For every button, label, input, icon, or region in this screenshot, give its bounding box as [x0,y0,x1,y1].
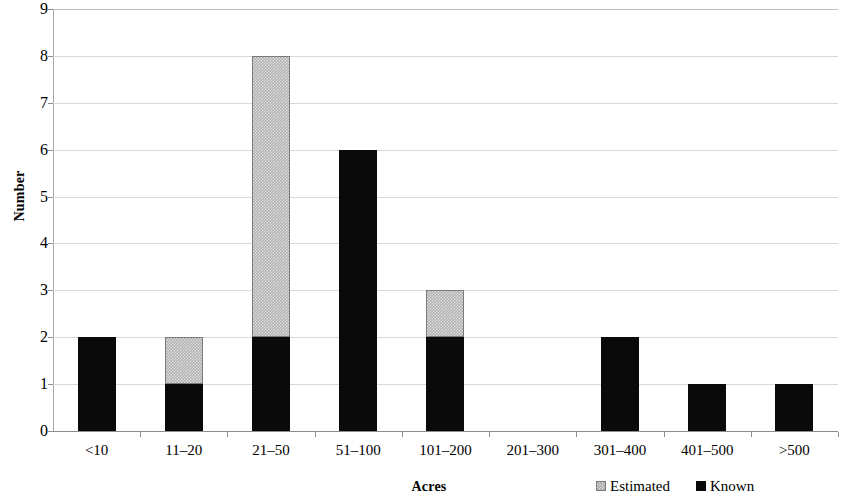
x-axis-tick-label: 301–400 [576,440,663,460]
legend-label-known: Known [710,478,754,494]
y-axis-tick-label: 3 [2,282,48,298]
y-axis-tick-label: 8 [2,48,48,64]
bar-slot [576,9,663,431]
legend-swatch-estimated-icon [596,481,606,491]
bar-segment-estimated[interactable] [426,290,464,337]
y-axis-tick-labels: 0123456789 [0,0,48,503]
x-axis-line [53,431,838,432]
x-axis-tickmark [576,432,577,437]
x-axis-tick-label: 101–200 [402,440,489,460]
y-axis-tick-label: 1 [2,376,48,392]
bar-stack[interactable] [339,150,377,431]
x-axis-tick-label: 401–500 [664,440,751,460]
chart-container: Number 0123456789 <1011–2021–5051–100101… [0,0,842,503]
y-axis-tick-label: 5 [2,189,48,205]
bar-segment-known[interactable] [252,337,290,431]
bar-slot [489,9,576,431]
x-axis-tick-label: 201–300 [489,440,576,460]
bar-segment-known[interactable] [339,150,377,431]
x-axis-tickmark [227,432,228,437]
bar-stack[interactable] [775,384,813,431]
bar-segment-known[interactable] [601,337,639,431]
x-axis-tick-labels: <1011–2021–5051–100101–200201–300301–400… [53,440,838,464]
bar-segment-known[interactable] [78,337,116,431]
x-axis-tick-label: 21–50 [227,440,314,460]
x-axis-tick-label: 51–100 [315,440,402,460]
x-axis-tickmark [315,432,316,437]
bar-segment-known[interactable] [165,384,203,431]
bar-slot [751,9,838,431]
x-axis-tickmark [751,432,752,437]
y-axis-tick-label: 2 [2,329,48,345]
bar-slot [227,9,314,431]
bar-stack[interactable] [688,384,726,431]
bar-slot [664,9,751,431]
bar-segment-estimated[interactable] [165,337,203,384]
bar-slot [315,9,402,431]
y-axis-tick-label: 4 [2,235,48,251]
x-axis-tickmark [838,432,839,437]
y-axis-tick-label: 0 [2,423,48,439]
y-axis-tick-label: 6 [2,142,48,158]
x-axis-tickmark [664,432,665,437]
x-axis-tickmark [140,432,141,437]
bar-segment-known[interactable] [775,384,813,431]
chart-legend: Estimated Known [596,478,754,494]
bar-segment-known[interactable] [426,337,464,431]
bar-series-group [53,9,838,431]
x-axis-tick-label: <10 [53,440,140,460]
y-axis-tick-label: 7 [2,95,48,111]
bar-slot [53,9,140,431]
bar-stack[interactable] [601,337,639,431]
bar-stack[interactable] [165,337,203,431]
legend-label-estimated: Estimated [610,478,670,494]
bar-segment-estimated[interactable] [252,56,290,337]
bar-slot [402,9,489,431]
legend-swatch-known-icon [696,481,706,491]
plot-area [53,9,838,431]
legend-item-known: Known [696,478,754,494]
x-axis-tick-label: 11–20 [140,440,227,460]
x-axis-title-text: Acres [412,479,447,494]
x-axis-tick-label: >500 [751,440,838,460]
legend-item-estimated: Estimated [596,478,670,494]
bar-segment-known[interactable] [688,384,726,431]
bar-stack[interactable] [252,56,290,431]
x-axis-tickmark [489,432,490,437]
y-axis-tick-label: 9 [2,1,48,17]
bar-slot [140,9,227,431]
bar-stack[interactable] [426,290,464,431]
bar-stack[interactable] [78,337,116,431]
x-axis-tickmark [402,432,403,437]
